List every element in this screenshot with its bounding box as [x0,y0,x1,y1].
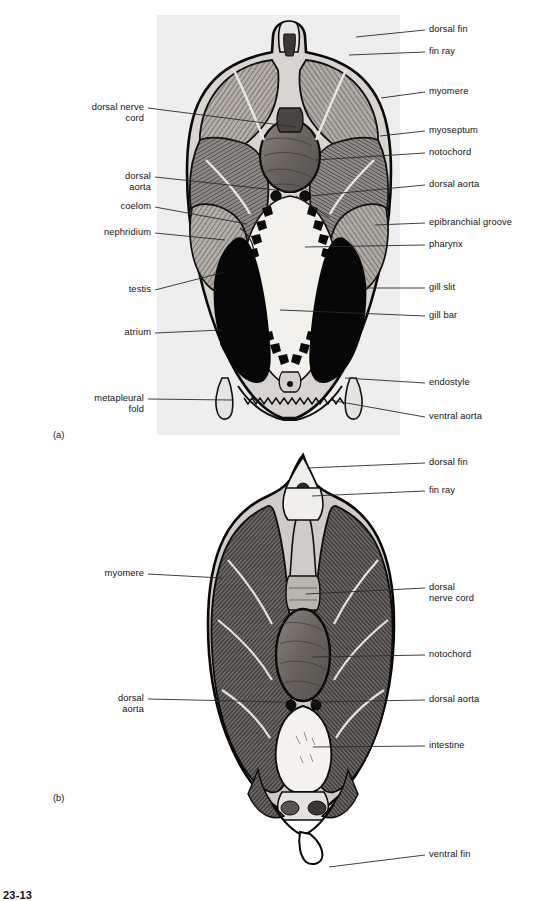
label-dorsal-fin-b: dorsal fin [429,457,468,468]
fin-ray-a [284,34,296,56]
ventral-aorta-a [287,381,293,387]
dorsal-nerve-cord-a [277,108,303,132]
label-coelom-a: coelom [0,201,151,212]
label-dorsal-aorta-a-right: dorsal aorta [429,179,479,190]
label-nephridium-a: nephridium [0,227,151,238]
figure-number: 23-13 [3,889,32,901]
label-myoseptum-a: myoseptum [429,125,478,136]
label-atrium-a: atrium [0,327,151,338]
label-gill-bar-a: gill bar [429,310,457,321]
label-myomere-b: myomere [0,568,144,579]
panel-a-artwork [0,0,425,435]
label-dorsal-nerve-cord-b: dorsal nerve cord [429,582,474,604]
label-intestine-b: intestine [429,740,465,751]
label-notochord-b: notochord [429,649,471,660]
dorsal-nerve-cord-b [286,576,320,610]
label-ventral-aorta-a: ventral aorta [429,411,482,422]
label-fin-ray-b: fin ray [429,485,455,496]
label-metapleural-fold-a: metapleural fold [0,393,144,415]
label-dorsal-nerve-cord-a: dorsal nerve cord [0,102,144,124]
label-dorsal-aorta-b-right: dorsal aorta [429,694,479,705]
label-dorsal-fin-a: dorsal fin [429,24,468,35]
label-dorsal-aorta-b-left: dorsal aorta [0,693,144,715]
panel-letter-a: (a) [53,430,64,440]
ventral-organ-b-right [308,801,326,815]
label-endostyle-a: endostyle [429,377,470,388]
label-dorsal-aorta-a-left: dorsal aorta [0,171,151,193]
label-testis-a: testis [0,284,151,295]
panel-letter-b: (b) [53,793,64,803]
fin-chamber-b [283,488,323,520]
label-fin-ray-a: fin ray [429,46,455,57]
label-myomere-a: myomere [429,86,468,97]
ventral-fin-b [299,832,322,864]
ventral-organ-b-left [281,801,299,815]
label-ventral-fin-b: ventral fin [429,849,470,860]
label-pharynx-a: pharynx [429,239,463,250]
label-epibranchial-groove-a: epibranchial groove [429,217,512,228]
panel-b-artwork [148,455,425,867]
dorsal-aorta-b-left [286,700,296,710]
label-gill-slit-a: gill slit [429,282,455,293]
label-notochord-a: notochord [429,147,471,158]
